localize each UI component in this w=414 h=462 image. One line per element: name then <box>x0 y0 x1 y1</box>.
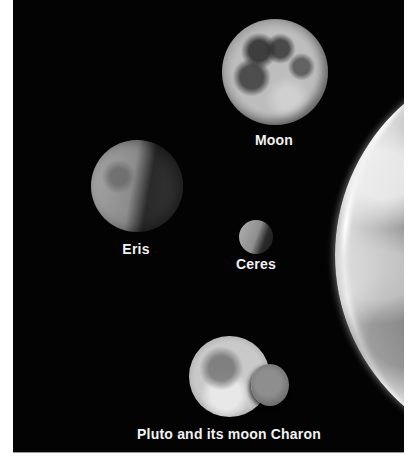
ceres-label: Ceres <box>236 256 276 272</box>
pluto-charon-label: Pluto and its moon Charon <box>137 426 321 442</box>
charon-image <box>251 364 289 406</box>
moon-image <box>222 19 328 125</box>
moon-label: Moon <box>255 132 293 148</box>
earth-image <box>335 55 404 452</box>
eris-label: Eris <box>122 241 149 257</box>
ceres-image <box>239 220 273 254</box>
eris-image <box>91 140 183 232</box>
space-image-panel: Moon Eris Ceres Pluto and its moon Charo… <box>13 0 404 452</box>
panel-bottom-border <box>13 452 404 453</box>
